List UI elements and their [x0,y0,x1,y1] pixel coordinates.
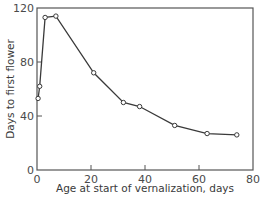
axis-ticks: 02040608004080120 [13,2,260,186]
data-point-marker [235,133,239,137]
x-tick-label: 0 [34,173,41,186]
plot-frame [37,8,253,170]
data-point-marker [173,123,177,127]
data-point-marker [38,84,42,88]
data-series [36,14,239,137]
series-line [38,16,237,135]
data-point-marker [92,71,96,75]
y-axis-title: Days to first flower [4,38,16,138]
data-point-marker [121,100,125,104]
data-point-marker [36,96,40,100]
x-tick-label: 80 [246,173,260,186]
y-tick-label: 40 [20,110,34,123]
x-axis-title: Age at start of vernalization, days [56,182,234,194]
data-point-marker [43,15,47,19]
plot-border [37,8,253,170]
data-point-marker [54,14,58,18]
data-point-marker [205,131,209,135]
y-tick-label: 80 [20,56,34,69]
data-point-marker [137,104,141,108]
y-tick-label: 0 [27,164,34,177]
y-tick-label: 120 [13,2,34,15]
line-chart: 02040608004080120 Age at start of vernal… [0,0,266,198]
